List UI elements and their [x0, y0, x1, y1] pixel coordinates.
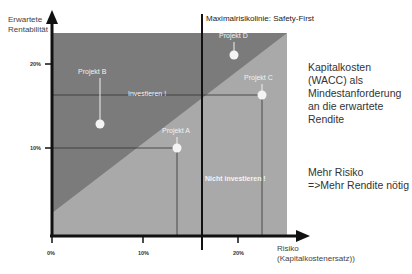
x-tick-label-20: 20% — [233, 250, 244, 256]
y-axis-label-line2: Rentabilität — [8, 25, 48, 35]
wacc-note-line: Rendite — [308, 113, 401, 126]
wacc-note-line: Kapitalkosten — [308, 61, 401, 74]
x-axis-label: Risiko (Kapitalkostenersatz)) — [277, 244, 355, 264]
y-axis-label-line1: Erwartete — [8, 15, 48, 25]
wacc-note: Kapitalkosten (WACC) als Mindestanforder… — [308, 61, 401, 126]
risk-note: Mehr Risiko =>Mehr Rendite nötig — [308, 166, 409, 192]
project-d-label: Projekt D — [219, 32, 248, 39]
y-tick-label-10: 10% — [30, 145, 41, 151]
invest-zone-label: Investieren ! — [128, 90, 166, 97]
wacc-note-line: an die erwartete — [308, 100, 401, 113]
x-tick-label-10: 10% — [138, 250, 149, 256]
risk-note-line: =>Mehr Rendite nötig — [308, 179, 409, 192]
y-tick-label-20: 20% — [30, 61, 41, 67]
project-a-label: Projekt A — [162, 127, 190, 134]
x-axis-label-line1: Risiko — [277, 244, 355, 254]
wacc-note-line: (WACC) als — [308, 74, 401, 87]
max-risk-line-label: Maximalrisikolinie: Safety-First — [206, 14, 314, 23]
wacc-note-line: Mindestanforderung — [308, 87, 401, 100]
project-b-label: Projekt B — [78, 68, 106, 75]
x-tick-label-0: 0% — [47, 250, 55, 256]
diagram-canvas — [0, 0, 412, 274]
x-axis-arrow-icon — [296, 230, 310, 242]
project-c-label: Projekt C — [244, 74, 273, 81]
risk-note-line: Mehr Risiko — [308, 166, 409, 179]
y-axis-label: Erwartete Rentabilität — [8, 15, 48, 35]
not-invest-zone-label: Nicht investieren ! — [205, 175, 266, 182]
x-axis-label-line2: (Kapitalkostenersatz)) — [277, 254, 355, 264]
